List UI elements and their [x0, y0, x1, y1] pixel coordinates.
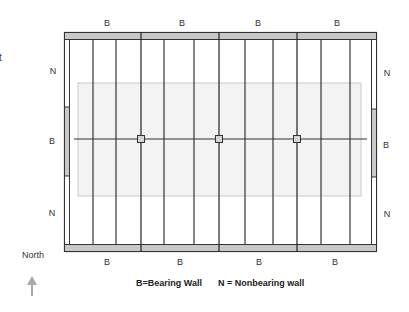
label-left-1: N: [50, 66, 57, 76]
north-label: North: [22, 250, 44, 260]
label-right-1: N: [384, 68, 391, 78]
top-bearing-wall: [65, 33, 377, 40]
bottom-bearing-wall: [65, 245, 377, 252]
legend-bearing: B=Bearing Wall: [136, 278, 202, 288]
post-2: [216, 136, 223, 143]
post-3: [294, 136, 301, 143]
legend-nonbearing: N = Nonbearing wall: [218, 278, 304, 288]
label-top-3: B: [255, 18, 261, 28]
label-bottom-1: B: [104, 257, 110, 267]
label-left-3: N: [49, 208, 56, 218]
label-top-2: B: [179, 18, 185, 28]
label-bottom-3: B: [256, 257, 262, 267]
up-arrow-icon: [27, 276, 37, 296]
post-1: [138, 136, 145, 143]
label-top-1: B: [104, 18, 110, 28]
label-bottom-4: B: [332, 257, 338, 267]
label-left-2: B: [49, 136, 55, 146]
label-top-4: B: [334, 18, 340, 28]
label-right-2: B: [383, 140, 389, 150]
right-bearing-segment: [372, 109, 377, 177]
label-bottom-2: B: [177, 257, 183, 267]
left-bearing-segment: [65, 107, 70, 176]
floor-plan-diagram: [0, 0, 409, 312]
label-right-3: N: [384, 209, 391, 219]
